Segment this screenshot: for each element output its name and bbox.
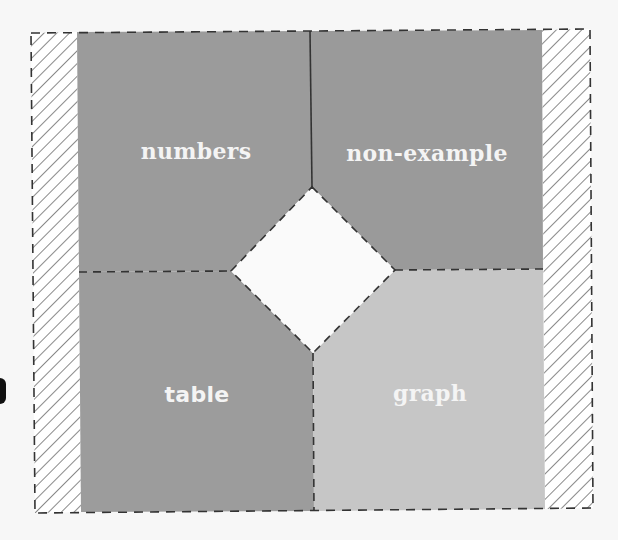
edge-mark xyxy=(0,378,6,404)
label-numbers: numbers xyxy=(141,138,252,164)
label-table: table xyxy=(164,382,229,407)
right-hatch-band xyxy=(542,29,593,509)
frayer-diagram xyxy=(0,0,618,540)
label-non-example: non-example xyxy=(346,140,507,166)
label-graph: graph xyxy=(393,380,467,406)
left-hatch-band xyxy=(31,32,81,513)
